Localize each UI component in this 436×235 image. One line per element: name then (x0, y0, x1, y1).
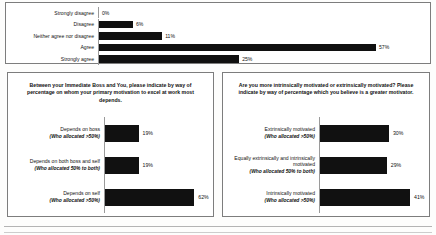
category-label-main: Depends on boss (60, 126, 100, 132)
category-label-sub: (Who allocated 50% to both) (35, 166, 100, 171)
chart-row: Depends on self (Who allocated >50%) 62% (8, 181, 210, 213)
category-label-sub: (Who allocated >50%) (265, 198, 315, 203)
bar (320, 189, 410, 206)
category-label-sub: (Who allocated >50%) (50, 134, 100, 139)
bar (99, 55, 239, 62)
bar-value-label: 19% (143, 162, 153, 168)
category-label: Neither agree nor disagree (6, 33, 98, 39)
plot-area: 57% (98, 42, 428, 53)
category-label-sub: (Who allocated >50%) (50, 198, 100, 203)
bar (105, 189, 194, 206)
category-label: Extrinsically motivated (Who allocated >… (223, 126, 319, 140)
category-label-main: Depends on both boss and self (30, 158, 100, 164)
bar-value-label: 30% (393, 130, 403, 136)
chart-row: Equally extrinsically and intrinsically … (223, 149, 426, 181)
bar (105, 157, 139, 174)
category-label: Intrinsically motivated (Who allocated >… (223, 190, 319, 204)
category-label: Strongly disagree (6, 10, 98, 16)
bar-value-label: 25% (242, 56, 252, 62)
bar-value-label: 29% (391, 162, 401, 168)
bar-value-label: 41% (414, 194, 424, 200)
category-label: Agree (6, 44, 98, 50)
category-label: Depends on both boss and self (Who alloc… (8, 158, 104, 172)
page-divider-rule (4, 226, 432, 227)
chart-row: Depends on both boss and self (Who alloc… (8, 149, 210, 181)
likert-rows: Strongly disagree 0% Disagree 6% Neither… (6, 7, 428, 61)
bar (320, 157, 387, 174)
chart-rows: Extrinsically motivated (Who allocated >… (223, 117, 426, 212)
plot-area: 0% (98, 7, 428, 18)
category-label: Depends on self (Who allocated >50%) (8, 190, 104, 204)
likert-chart-panel: Strongly disagree 0% Disagree 6% Neither… (5, 2, 431, 64)
page-divider-rule-secondary (4, 232, 432, 233)
category-label-sub: (Who allocated 50% to both) (250, 169, 315, 174)
question-title: Between your Immediate Boss and You, ple… (19, 82, 202, 104)
category-label: Depends on boss (Who allocated >50%) (8, 126, 104, 140)
category-label: Equally extrinsically and intrinsically … (223, 155, 319, 176)
plot-area: 41% (319, 181, 426, 213)
category-label-main: Equally extrinsically and intrinsically … (234, 155, 315, 168)
chart-rows: Depends on boss (Who allocated >50%) 19%… (8, 117, 210, 212)
bar (99, 44, 376, 51)
bar-value-label: 11% (165, 33, 175, 39)
plot-area: 6% (98, 19, 428, 30)
chart-row: Extrinsically motivated (Who allocated >… (223, 117, 426, 149)
category-label: Disagree (6, 21, 98, 27)
plot-area: 19% (104, 117, 210, 149)
intrinsic-vs-extrinsic-chart-panel: Are you more intrinsically motivated or … (222, 72, 430, 217)
bar-value-label: 6% (136, 21, 143, 27)
bar-value-label: 57% (379, 44, 389, 50)
category-label-main: Extrinsically motivated (265, 126, 315, 132)
chart-row: Intrinsically motivated (Who allocated >… (223, 181, 426, 213)
boss-vs-self-chart-panel: Between your Immediate Boss and You, ple… (7, 72, 214, 217)
plot-area: 62% (104, 181, 210, 213)
plot-area: 19% (104, 149, 210, 181)
document-page: Strongly disagree 0% Disagree 6% Neither… (0, 0, 436, 235)
category-label-main: Depends on self (63, 190, 100, 196)
bar-value-label: 62% (198, 194, 208, 200)
bar (99, 32, 162, 39)
plot-area: 29% (319, 149, 426, 181)
chart-row: Disagree 6% (6, 19, 428, 30)
chart-row: Depends on boss (Who allocated >50%) 19% (8, 117, 210, 149)
plot-area: 30% (319, 117, 426, 149)
category-label-main: Intrinsically motivated (266, 190, 315, 196)
category-label-sub: (Who allocated >50%) (265, 134, 315, 139)
chart-row: Strongly agree 25% (6, 53, 428, 64)
bar (99, 21, 133, 28)
chart-row: Strongly disagree 0% (6, 7, 428, 18)
chart-row: Agree 57% (6, 42, 428, 53)
chart-row: Neither agree nor disagree 11% (6, 30, 428, 41)
category-label: Strongly agree (6, 56, 98, 62)
bar (105, 125, 139, 142)
bar (320, 125, 389, 142)
plot-area: 25% (98, 53, 428, 64)
bar-value-label: 19% (143, 130, 153, 136)
question-title: Are you more intrinsically motivated or … (234, 82, 418, 97)
plot-area: 11% (98, 30, 428, 41)
bar-value-label: 0% (102, 10, 109, 16)
